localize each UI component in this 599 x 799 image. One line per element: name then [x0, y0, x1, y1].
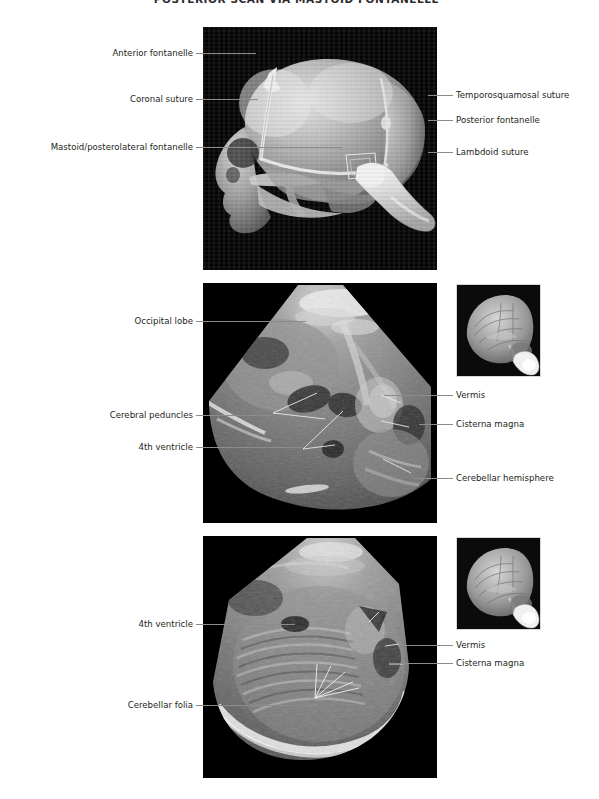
label-posterior-fontanelle: Posterior fontanelle: [456, 115, 598, 125]
sagittal-brain-diagram-2: [457, 538, 541, 630]
label-4th-ventricle-upper: 4th ventricle: [10, 442, 193, 452]
label-anterior-fontanelle: Anterior fontanelle: [10, 48, 193, 58]
label-cisterna-magna-upper: Cisterna magna: [456, 419, 598, 429]
leader-cisterna-magna-upper: [419, 424, 453, 425]
label-cisterna-magna-lower: Cisterna magna: [456, 658, 598, 668]
leader-cerebellar-folia: [196, 705, 315, 706]
leader-vermis-upper: [384, 395, 453, 396]
sagittal-brain-probe-inset-upper: [456, 284, 541, 377]
leader-4th-ventricle-upper: [196, 447, 303, 448]
label-lambdoid-suture: Lambdoid suture: [456, 147, 598, 157]
figure-title: POSTERIOR SCAN VIA MASTOID FONTANELLE: [0, 0, 599, 4]
sagittal-brain-diagram: [457, 285, 541, 377]
leader-vermis-lower: [399, 645, 453, 646]
skull-3d-render: [203, 27, 437, 270]
leader-mastoid-fontanelle: [196, 147, 342, 148]
label-coronal-suture: Coronal suture: [10, 94, 193, 104]
label-4th-ventricle-lower: 4th ventricle: [10, 619, 193, 629]
label-vermis-upper: Vermis: [456, 390, 598, 400]
leader-coronal-suture: [196, 99, 258, 100]
label-cerebellar-hemisphere: Cerebellar hemisphere: [456, 473, 598, 483]
leader-cerebral-peduncles: [196, 415, 273, 416]
label-vermis-lower: Vermis: [456, 640, 598, 650]
leader-cisterna-magna-lower: [390, 663, 453, 664]
ultrasound-image-upper: [203, 283, 437, 523]
leader-anterior-fontanelle: [196, 53, 256, 54]
ultrasound-render-upper: [203, 283, 437, 523]
leader-cerebellar-hemisphere: [412, 478, 453, 479]
leader-4th-ventricle-lower: [196, 624, 295, 625]
sagittal-brain-probe-inset-lower: [456, 537, 541, 630]
leader-occipital-lobe: [196, 321, 306, 322]
label-temporosquamosal-suture: Temporosquamosal suture: [456, 90, 598, 100]
ultrasound-render-lower: [203, 536, 437, 778]
label-cerebral-peduncles: Cerebral peduncles: [10, 410, 193, 420]
leader-lambdoid-suture: [428, 152, 453, 153]
skull-illustration: [203, 27, 437, 270]
leader-temporosquamosal-suture: [428, 95, 453, 96]
leader-posterior-fontanelle: [428, 120, 453, 121]
label-occipital-lobe: Occipital lobe: [10, 316, 193, 326]
label-cerebellar-folia: Cerebellar folia: [10, 700, 193, 710]
label-mastoid-fontanelle: Mastoid/posterolateral fontanelle: [5, 142, 193, 152]
ultrasound-image-lower: [203, 536, 437, 778]
